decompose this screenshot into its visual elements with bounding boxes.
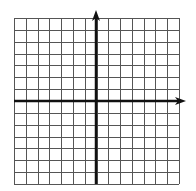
coordinate-plane	[0, 0, 196, 191]
coordinate-grid-graphic	[0, 0, 196, 191]
axes	[14, 10, 186, 184]
